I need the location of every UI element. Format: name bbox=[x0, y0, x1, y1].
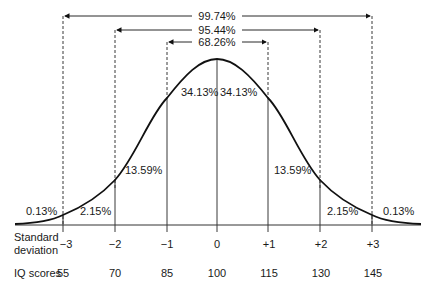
bell-curve bbox=[15, 59, 421, 224]
iq-label: IQ scores bbox=[14, 267, 61, 279]
iq-tick: 100 bbox=[208, 267, 226, 279]
sd-tick: −2 bbox=[109, 238, 122, 250]
segment-label-right-tail: 0.13% bbox=[383, 205, 414, 217]
segment-label-pos2-pos3: 2.15% bbox=[327, 205, 358, 217]
interval-label-3sd: 99.74% bbox=[198, 10, 235, 22]
sd-label-line1: Standard bbox=[14, 231, 59, 243]
iq-tick: 130 bbox=[312, 267, 330, 279]
sd-tick: −3 bbox=[60, 238, 73, 250]
sd-tick: +1 bbox=[263, 238, 276, 250]
interval-label-1sd: 68.26% bbox=[198, 36, 235, 48]
sd-tick: +3 bbox=[367, 238, 380, 250]
segment-label-neg3-neg2: 2.15% bbox=[80, 205, 111, 217]
iq-tick: 85 bbox=[161, 267, 173, 279]
sd-tick: +2 bbox=[315, 238, 328, 250]
interval-label-2sd: 95.44% bbox=[198, 24, 235, 36]
segment-label-0-pos1: 34.13% bbox=[220, 86, 257, 98]
sd-label-line2: deviation bbox=[14, 244, 58, 256]
iq-tick: 115 bbox=[260, 267, 278, 279]
segment-label-neg2-neg1: 13.59% bbox=[125, 164, 162, 176]
segment-label-pos1-pos2: 13.59% bbox=[274, 164, 311, 176]
sd-tick: −1 bbox=[161, 238, 174, 250]
iq-tick: 55 bbox=[57, 267, 69, 279]
iq-tick: 70 bbox=[109, 267, 121, 279]
sd-tick: 0 bbox=[214, 238, 220, 250]
iq-tick: 145 bbox=[364, 267, 382, 279]
segment-label-neg1-0: 34.13% bbox=[181, 86, 218, 98]
segment-label-left-tail: 0.13% bbox=[26, 205, 57, 217]
